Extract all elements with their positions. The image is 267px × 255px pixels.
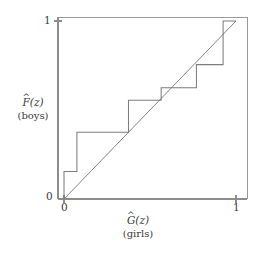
x-axis-title-sub: (girls) [108,228,168,241]
reference-diagonal-line [64,21,236,199]
axis-ticks [54,21,236,203]
x-axis-symbol-arg: (z) [135,214,149,226]
x-tick-label-1: 1 [233,201,240,214]
x-axis-title: ^G(z) (girls) [108,214,168,241]
y-axis-title-symbol: ^F(z) [10,96,56,109]
x-hat-accent: ^ [127,211,134,220]
y-axis-title-sub: (boys) [10,110,56,123]
y-hat-accent: ^ [22,93,28,102]
y-tick-label-0: 0 [46,190,53,203]
x-hat-group: ^G [127,214,135,227]
y-axis-title: ^F(z) (boys) [10,96,56,123]
y-tick-label-1: 1 [44,14,51,27]
y-hat-group: ^F [22,96,29,109]
x-axis-title-symbol: ^G(z) [108,214,168,227]
x-tick-label-0: 0 [61,201,68,214]
y-axis-symbol-arg: (z) [30,96,44,108]
pp-plot-figure: 1 0 0 1 ^F(z) (boys) ^G(z) (girls) [0,0,267,255]
